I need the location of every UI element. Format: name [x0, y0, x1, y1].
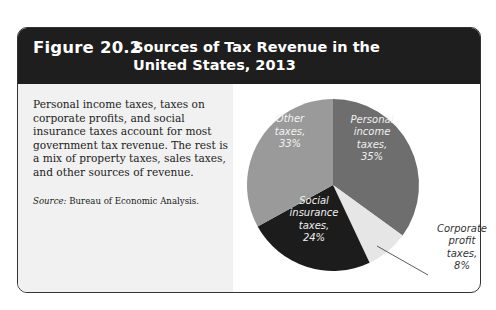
corporate-leader-line	[377, 246, 428, 275]
label-corporate-profit: Corporateprofittaxes,8%	[437, 223, 487, 272]
pie-chart: Personalincometaxes,35%Corporateprofitta…	[0, 0, 496, 310]
label-other: Othertaxes,33%	[275, 113, 306, 149]
pie-slices	[247, 99, 419, 271]
